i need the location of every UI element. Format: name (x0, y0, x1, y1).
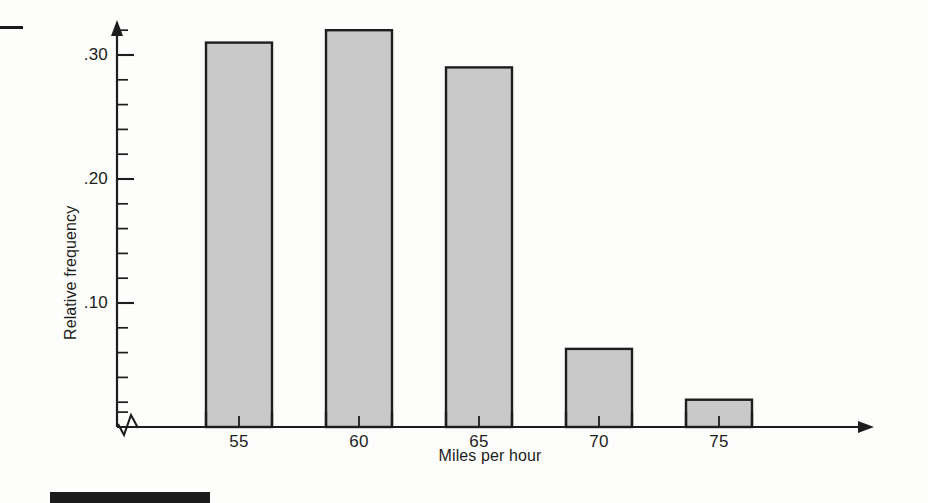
bar (566, 349, 632, 427)
bar-series (206, 30, 752, 427)
y-axis-ticks (117, 30, 134, 412)
histogram-svg (0, 0, 928, 503)
axis-break-zigzag-icon (118, 415, 138, 435)
bar (446, 67, 512, 427)
x-axis-tick-label: 70 (569, 432, 629, 452)
y-axis-tick-label: .30 (62, 45, 108, 65)
histogram-figure: Relative frequency Miles per hour .10.20… (0, 0, 928, 503)
footer-black-tab-artifact (50, 492, 210, 503)
x-axis-tick-label: 60 (329, 432, 389, 452)
y-axis-tick-label: .20 (62, 169, 108, 189)
x-axis-tick-label: 55 (209, 432, 269, 452)
bar (326, 30, 392, 427)
x-axis-arrow-icon (858, 421, 874, 433)
x-axis-tick-label: 65 (449, 432, 509, 452)
y-axis-arrow-icon (111, 20, 123, 36)
bar (206, 43, 272, 427)
y-axis (111, 20, 123, 427)
x-axis-tick-label: 75 (689, 432, 749, 452)
y-axis-tick-label: .10 (62, 293, 108, 313)
